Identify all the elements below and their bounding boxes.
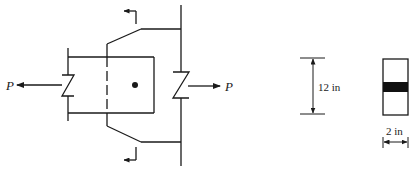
left-plate [62,48,154,121]
right-load-label: P [224,79,233,94]
height-dimension: 12 in [300,58,341,114]
section-cut-bottom [124,147,136,160]
gusset-plate [107,29,181,142]
section-cut-top [124,11,136,24]
width-dimension-label: 2 in [386,125,403,137]
bolt-dot [132,82,138,88]
connection-diagram: P P 12 in 2 in [0,0,414,174]
height-dimension-label: 12 in [318,81,341,93]
left-break-symbol [62,75,74,96]
plate-section-band [383,82,408,92]
left-load-label: P [5,78,14,93]
width-dimension: 2 in [383,125,408,148]
right-break-symbol [173,72,189,98]
section-view [383,59,408,115]
